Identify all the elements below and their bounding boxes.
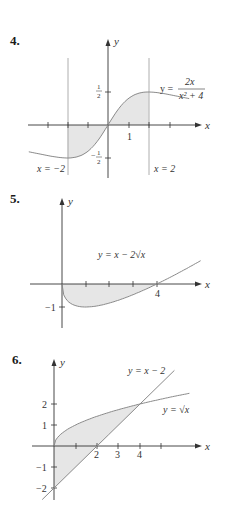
y-tick-label-neg1: −1	[36, 462, 47, 473]
function-label-line: y = x − 2	[127, 365, 165, 376]
x-axis-arrow-icon	[195, 444, 202, 449]
chart-6: y x 2 3 4 2 1 −1 −2 y = x − 2 y = √x	[0, 0, 231, 521]
x-tick-label-2: 2	[94, 449, 99, 460]
function-label-sqrt: y = √x	[162, 404, 190, 415]
y-tick-label-neg2: −2	[36, 483, 47, 494]
y-tick-label-1: 1	[42, 420, 47, 431]
x-tick-label-4: 4	[137, 449, 142, 460]
y-axis-arrow-icon	[52, 359, 57, 366]
y-axis-label-6: y	[59, 356, 65, 368]
x-axis-label-6: x	[204, 440, 210, 452]
x-tick-label-3: 3	[115, 449, 120, 460]
y-tick-label-2: 2	[42, 399, 47, 410]
